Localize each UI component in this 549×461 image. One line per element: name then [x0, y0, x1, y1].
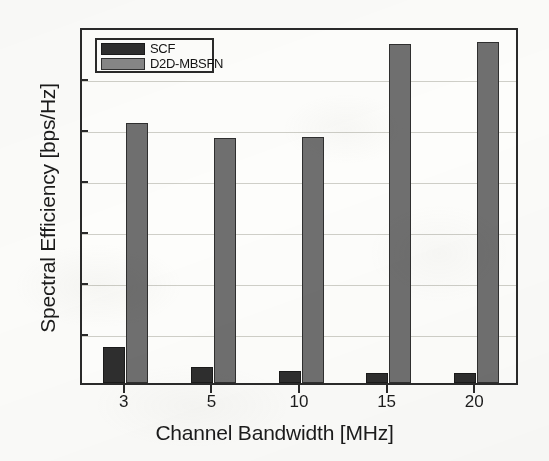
x-tick-label: 20	[444, 392, 504, 412]
chart-screenshot: Spectral Efficiency [bps/Hz] 05101520253…	[0, 0, 549, 461]
legend-label-d2d-mbsfn: D2D-MBSFN	[150, 57, 223, 70]
x-tick-mark	[473, 385, 475, 393]
bar-scf-20	[454, 373, 476, 383]
x-tick-mark	[386, 385, 388, 393]
y-tick-mark	[80, 334, 88, 336]
y-tick-mark	[80, 181, 88, 183]
bar-d2d-mbsfn-5	[214, 138, 236, 383]
legend-label-scf: SCF	[150, 42, 175, 55]
y-tick-mark	[80, 283, 88, 285]
legend-swatch-scf	[101, 43, 145, 55]
bar-scf-10	[279, 371, 301, 383]
x-tick-mark	[123, 385, 125, 393]
gridline	[82, 81, 516, 82]
x-tick-mark	[210, 385, 212, 393]
y-tick-mark	[80, 79, 88, 81]
legend-entry-scf: SCF	[101, 42, 175, 55]
x-tick-label: 5	[181, 392, 241, 412]
legend-swatch-d2d-mbsfn	[101, 58, 145, 70]
bar-d2d-mbsfn-15	[389, 44, 411, 383]
x-axis-title: Channel Bandwidth [MHz]	[0, 421, 549, 445]
bar-d2d-mbsfn-3	[126, 123, 148, 383]
legend-entry-d2d-mbsfn: D2D-MBSFN	[101, 57, 223, 70]
y-axis-title: Spectral Efficiency [bps/Hz]	[36, 43, 60, 373]
bar-scf-3	[103, 347, 125, 383]
x-tick-label: 3	[94, 392, 154, 412]
bar-scf-5	[191, 367, 213, 383]
bar-scf-15	[366, 373, 388, 383]
y-tick-mark	[80, 232, 88, 234]
y-tick-mark	[80, 130, 88, 132]
plot-area	[80, 28, 518, 385]
bar-d2d-mbsfn-20	[477, 42, 499, 383]
x-tick-mark	[298, 385, 300, 393]
x-tick-label: 15	[357, 392, 417, 412]
x-tick-label: 10	[269, 392, 329, 412]
bar-d2d-mbsfn-10	[302, 137, 324, 383]
chart-legend: SCF D2D-MBSFN	[95, 38, 214, 73]
